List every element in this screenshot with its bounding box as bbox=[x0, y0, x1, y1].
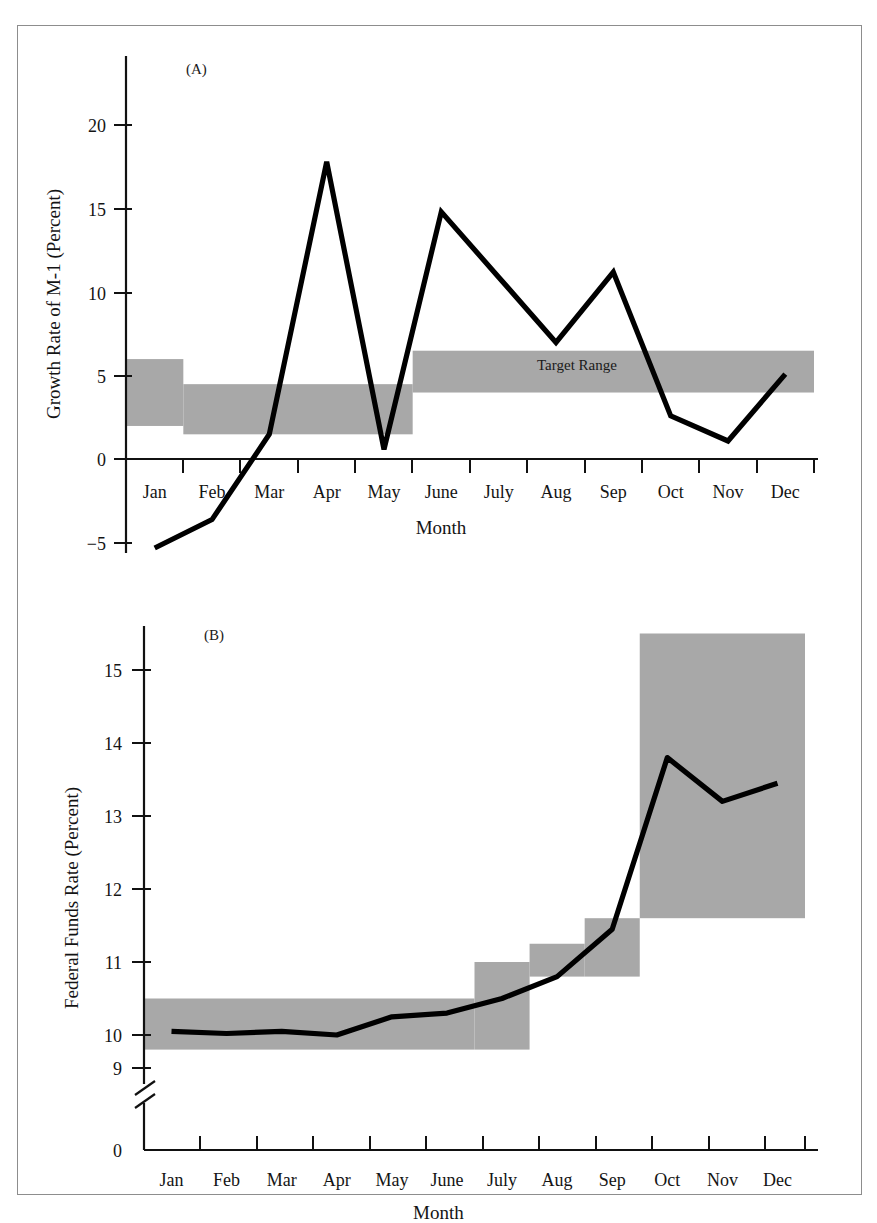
panel-b-xtick-Apr: Apr bbox=[323, 1170, 351, 1190]
panel-b-x-ticks bbox=[144, 1136, 805, 1150]
panel-a-xtick-May: May bbox=[368, 482, 401, 502]
panel-b-target-bands bbox=[144, 634, 805, 1050]
panel-a-xtick-Apr: Apr bbox=[313, 482, 341, 502]
panel-a-xtick-Feb: Feb bbox=[199, 482, 226, 502]
panel-b-xtick-Nov: Nov bbox=[707, 1170, 738, 1190]
panel-a-ylabel: Growth Rate of M-1 (Percent) bbox=[43, 189, 65, 419]
panel-a-xtick-Jan: Jan bbox=[143, 482, 167, 502]
panel-a-xlabel: Month bbox=[416, 517, 467, 538]
panel-b-ytick-12: 12 bbox=[104, 880, 122, 900]
panel-a-chart: (A) Target Range 20 15 10 5 0 −5 Jan Feb… bbox=[18, 26, 863, 606]
panel-b-xlabel-wrap: Month bbox=[413, 1202, 464, 1223]
panel-b-xtick-Feb: Feb bbox=[213, 1170, 240, 1190]
panel-a-xtick-Sep: Sep bbox=[600, 482, 627, 502]
panel-a-panel-label: (A) bbox=[186, 61, 207, 78]
panel-b-xlabel: Month bbox=[413, 1202, 464, 1223]
ffr-band-5 bbox=[640, 634, 805, 919]
panel-b-ytick-14: 14 bbox=[104, 734, 122, 754]
panel-b-xtick-Mar: Mar bbox=[267, 1170, 297, 1190]
panel-b-ytick-11: 11 bbox=[105, 953, 122, 973]
panel-b-ytick-0: 0 bbox=[113, 1141, 122, 1161]
panel-a-xtick-June: June bbox=[425, 482, 458, 502]
panel-b-chart: (B) 15 14 13 12 11 10 9 0 Jan Feb Mar Ap… bbox=[18, 608, 863, 1196]
panel-a-ytick-neg5: −5 bbox=[87, 534, 106, 554]
panel-b-ylabel: Federal Funds Rate (Percent) bbox=[61, 787, 83, 1009]
panel-b-xtick-June: June bbox=[431, 1170, 464, 1190]
target-range-q1 bbox=[126, 359, 183, 426]
figure-frame: (A) Target Range 20 15 10 5 0 −5 Jan Feb… bbox=[17, 25, 862, 1195]
panel-a-xtick-Mar: Mar bbox=[254, 482, 284, 502]
panel-a-band-annotation: Target Range bbox=[537, 357, 617, 373]
panel-b-xtick-Jan: Jan bbox=[160, 1170, 184, 1190]
panel-b-ytick-10: 10 bbox=[104, 1026, 122, 1046]
panel-a-x-ticks bbox=[126, 459, 814, 473]
panel-b-xtick-July: July bbox=[487, 1170, 517, 1190]
panel-a-ytick-10: 10 bbox=[88, 284, 106, 304]
panel-a-target-bands bbox=[126, 351, 814, 435]
panel-b-svg: (B) 15 14 13 12 11 10 9 0 Jan Feb Mar Ap… bbox=[18, 608, 863, 1196]
panel-a-svg: (A) Target Range 20 15 10 5 0 −5 Jan Feb… bbox=[18, 26, 863, 606]
panel-b-xtick-Sep: Sep bbox=[599, 1170, 626, 1190]
panel-b-ytick-15: 15 bbox=[104, 661, 122, 681]
panel-b-panel-label: (B) bbox=[204, 627, 224, 644]
panel-a-xtick-Aug: Aug bbox=[541, 482, 572, 502]
panel-b-xtick-Oct: Oct bbox=[654, 1170, 680, 1190]
panel-a-xtick-Oct: Oct bbox=[658, 482, 684, 502]
ffr-band-1 bbox=[144, 999, 475, 1050]
panel-b-xtick-Dec: Dec bbox=[763, 1170, 792, 1190]
panel-a-y-ticks bbox=[114, 125, 132, 543]
panel-b-xtick-Aug: Aug bbox=[542, 1170, 573, 1190]
panel-a-ytick-5: 5 bbox=[97, 367, 106, 387]
panel-a-xtick-July: July bbox=[484, 482, 514, 502]
panel-a-xtick-Dec: Dec bbox=[771, 482, 800, 502]
panel-a-ytick-0: 0 bbox=[97, 450, 106, 470]
panel-a-xtick-Nov: Nov bbox=[713, 482, 744, 502]
panel-a-ytick-20: 20 bbox=[88, 116, 106, 136]
panel-b-xtick-May: May bbox=[375, 1170, 408, 1190]
panel-b-ytick-9: 9 bbox=[113, 1059, 122, 1079]
panel-a-ytick-15: 15 bbox=[88, 200, 106, 220]
panel-b-ytick-13: 13 bbox=[104, 807, 122, 827]
